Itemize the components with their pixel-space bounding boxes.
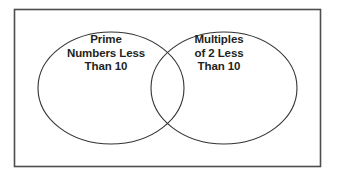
- right-set-label-line-3: Than 10: [172, 60, 266, 74]
- left-set-label-line-3: Than 10: [47, 60, 165, 74]
- right-set-label: Multiples of 2 Less Than 10: [172, 33, 266, 74]
- left-set-label-line-1: Prime: [47, 33, 165, 47]
- right-set-label-line-2: of 2 Less: [172, 47, 266, 61]
- right-set-label-line-1: Multiples: [172, 33, 266, 47]
- left-set-label: Prime Numbers Less Than 10: [47, 33, 165, 74]
- venn-diagram-canvas: [0, 0, 337, 177]
- left-set-label-line-2: Numbers Less: [47, 47, 165, 61]
- venn-diagram: Prime Numbers Less Than 10 Multiples of …: [0, 0, 337, 177]
